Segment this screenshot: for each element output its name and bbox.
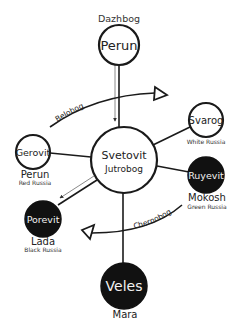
node-label: Ruyevit <box>188 170 224 181</box>
node-veles: Veles Mara <box>101 263 147 320</box>
edge-svetovit-porevit <box>58 180 97 205</box>
deity-caption: Mokosh <box>188 192 226 203</box>
region-caption: Black Russia <box>24 246 62 253</box>
region-caption: Green Russia <box>187 203 227 210</box>
node-label: Svetovit <box>101 149 147 162</box>
chernobog-arrowhead-icon <box>82 225 94 239</box>
node-label: Svarog <box>189 115 224 126</box>
belobog-arc: Belobog <box>50 87 167 127</box>
node-gerovit: Gerovit Perun Red Russia <box>16 135 52 186</box>
node-label: Perun <box>100 38 137 53</box>
node-label: Veles <box>106 278 143 294</box>
node-perun-top: Perun <box>99 25 139 65</box>
slavic-deities-diagram: Belobog Chernobog Dazhbog Perun Svetovit… <box>0 0 239 333</box>
node-ruyevit: Ruyevit Mokosh Green Russia <box>187 157 227 210</box>
node-porevit: Porevit Lada Black Russia <box>24 201 62 253</box>
node-label: Gerovit <box>16 147 51 158</box>
edge-svetovit-svarog <box>153 127 190 145</box>
belobog-label: Belobog <box>53 101 85 124</box>
node-label: Porevit <box>27 214 60 225</box>
node-sublabel: Jutrobog <box>104 164 143 174</box>
chernobog-arc: Chernobog <box>82 205 182 239</box>
dazhbog-label: Dazhbog <box>98 13 140 24</box>
region-caption: White Russia <box>187 138 226 145</box>
region-caption: Red Russia <box>19 179 52 186</box>
edge-svetovit-porevit-arrow <box>60 176 94 198</box>
node-svarog: Svarog White Russia <box>187 103 226 145</box>
deity-caption: Mara <box>113 309 138 320</box>
belobog-arrowhead-icon <box>154 87 167 100</box>
node-svetovit: Svetovit Jutrobog <box>91 127 157 193</box>
chernobog-label: Chernobog <box>132 207 173 231</box>
edge-svetovit-ruyevit <box>157 166 189 172</box>
edge-svetovit-gerovit <box>50 153 91 157</box>
